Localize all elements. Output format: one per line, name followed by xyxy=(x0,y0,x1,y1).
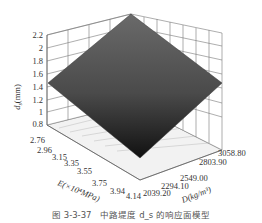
z-axis-label: ds(mm) xyxy=(12,84,23,110)
z-axis-ticks: 2.2 2 1.8 1.6 1.4 1.2 1 0.8 xyxy=(32,30,43,129)
svg-text:1: 1 xyxy=(39,107,43,117)
svg-text:1.4: 1.4 xyxy=(32,82,43,92)
svg-text:1.8: 1.8 xyxy=(32,56,43,66)
svg-text:3.55: 3.55 xyxy=(77,166,92,176)
svg-text:1.6: 1.6 xyxy=(32,69,43,79)
svg-text:2803.90: 2803.90 xyxy=(199,157,227,167)
svg-text:3058.80: 3058.80 xyxy=(218,148,246,158)
surface-chart: 2.2 2 1.8 1.6 1.4 1.2 1 0.8 ds(mm) 2.76 … xyxy=(0,0,262,223)
svg-text:0.8: 0.8 xyxy=(32,119,43,129)
svg-text:ds(mm): ds(mm) xyxy=(12,84,23,110)
figure-caption: 图 3-3-37 中路堤度 d_s 的响应面模型 xyxy=(0,208,262,220)
svg-text:2.2: 2.2 xyxy=(32,30,43,40)
svg-text:2.76: 2.76 xyxy=(30,135,45,145)
svg-text:2549.00: 2549.00 xyxy=(180,173,208,183)
svg-text:1.2: 1.2 xyxy=(32,95,43,105)
svg-text:2: 2 xyxy=(39,43,43,53)
svg-text:4.14: 4.14 xyxy=(126,191,142,201)
svg-text:2.96: 2.96 xyxy=(37,145,52,155)
svg-text:3.94: 3.94 xyxy=(110,186,126,196)
svg-text:3.75: 3.75 xyxy=(92,178,107,188)
